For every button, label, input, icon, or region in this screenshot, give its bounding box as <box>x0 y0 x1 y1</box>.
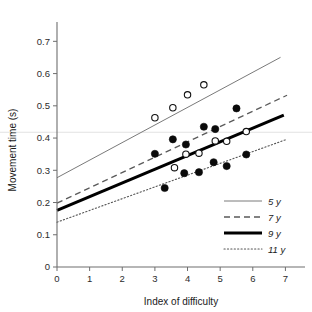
data-point <box>243 151 250 158</box>
data-point <box>243 128 249 134</box>
data-point <box>181 170 188 177</box>
data-point <box>170 105 176 111</box>
x-tick-label: 3 <box>152 273 157 284</box>
x-tick-label: 7 <box>283 273 288 284</box>
data-point <box>212 125 219 132</box>
y-tick-label: 0.4 <box>37 132 50 143</box>
data-point <box>223 138 229 144</box>
data-point <box>201 82 207 88</box>
data-point <box>233 105 240 112</box>
regression-line-7y <box>57 95 287 203</box>
legend-label: 5 y <box>268 196 282 207</box>
y-tick-label: 0.6 <box>37 68 50 79</box>
x-tick-label: 2 <box>120 273 125 284</box>
legend-label: 7 y <box>268 212 282 223</box>
legend: 5 y7 y9 y11 y <box>224 196 287 255</box>
y-tick-label: 0.3 <box>37 165 50 176</box>
legend-label: 11 y <box>268 244 287 255</box>
data-point <box>169 136 176 143</box>
data-point <box>212 138 218 144</box>
data-point <box>210 159 217 166</box>
data-point <box>161 184 168 191</box>
data-point <box>152 115 158 121</box>
x-tick-label: 0 <box>54 273 59 284</box>
regression-line-9y <box>57 115 284 210</box>
y-tick-label: 0.1 <box>37 229 50 240</box>
regression-line-5y <box>57 57 281 177</box>
legend-label: 9 y <box>268 228 282 239</box>
regression-line-11y <box>57 140 285 222</box>
x-tick-label: 1 <box>87 273 92 284</box>
data-point <box>184 92 190 98</box>
data-point <box>200 123 207 130</box>
x-tick-label: 5 <box>218 273 223 284</box>
data-point <box>223 162 230 169</box>
data-point <box>183 151 189 157</box>
data-point <box>171 165 177 171</box>
tick-labels-group: 00.10.20.30.40.50.60.701234567 <box>37 36 288 284</box>
y-axis-title: Movement time (s) <box>7 109 18 192</box>
x-axis-title: Index of difficulty <box>144 296 218 307</box>
data-point <box>182 141 189 148</box>
scatter-plot-svg: 00.10.20.30.40.50.60.701234567 5 y7 y9 y… <box>0 0 312 312</box>
x-tick-label: 6 <box>250 273 255 284</box>
data-point <box>195 169 202 176</box>
y-tick-label: 0.5 <box>37 100 50 111</box>
x-tick-label: 4 <box>185 273 190 284</box>
y-tick-label: 0.7 <box>37 36 50 47</box>
data-point <box>196 150 202 156</box>
y-tick-label: 0 <box>45 261 50 272</box>
y-tick-label: 0.2 <box>37 197 50 208</box>
chart-figure: 00.10.20.30.40.50.60.701234567 5 y7 y9 y… <box>0 0 312 312</box>
data-point <box>151 150 158 157</box>
